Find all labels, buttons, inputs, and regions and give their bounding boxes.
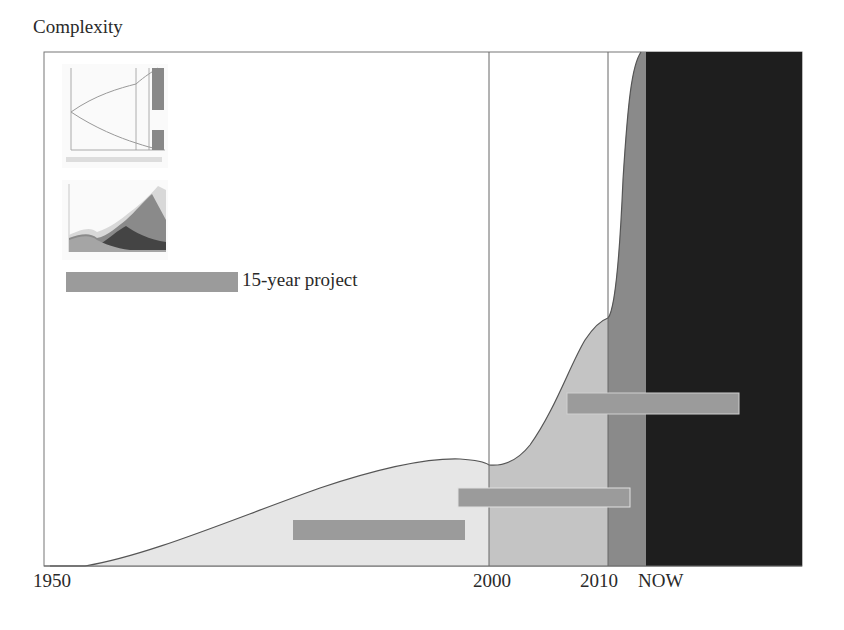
legend-swatch-project-bar bbox=[66, 272, 238, 292]
x-tick-2010: 2010 bbox=[580, 570, 618, 592]
inset-bifurcation-diagram bbox=[62, 64, 168, 168]
inset-stacked-area-chart bbox=[62, 180, 168, 260]
project-bar-2 bbox=[458, 488, 630, 507]
project-bar-3 bbox=[567, 393, 739, 414]
area-future-now bbox=[646, 52, 802, 566]
x-tick-1950: 1950 bbox=[33, 570, 71, 592]
x-tick-now: NOW bbox=[638, 570, 683, 592]
chart-plot-area bbox=[0, 0, 844, 630]
legend-label-15-year-project: 15-year project bbox=[242, 269, 358, 291]
project-bar-1 bbox=[293, 520, 465, 540]
x-tick-2000: 2000 bbox=[473, 570, 511, 592]
